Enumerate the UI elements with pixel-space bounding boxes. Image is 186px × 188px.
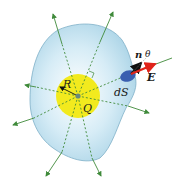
label-dS: dS: [114, 86, 129, 99]
label-theta: θ: [145, 49, 151, 59]
label-E: E: [146, 71, 156, 84]
label-Q: Q: [83, 102, 92, 115]
label-n: n: [135, 49, 142, 60]
point-charge: [75, 93, 80, 98]
label-R: R: [62, 78, 71, 91]
gauss-law-diagram: R Q dS n θ E: [0, 0, 186, 188]
